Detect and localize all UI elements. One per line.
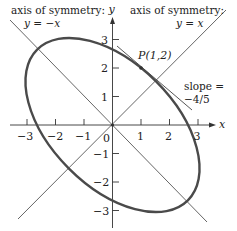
y-axis-arrow-icon: [110, 17, 115, 24]
origin-label: 0: [103, 132, 110, 145]
y-tick-label: 1: [101, 91, 108, 104]
x-tick-label: −1: [75, 130, 91, 143]
x-tick-label: −2: [47, 130, 63, 143]
x-axis-label: x: [219, 118, 226, 131]
x-tick-label: 3: [194, 130, 201, 143]
y-tick-label: −1: [93, 148, 109, 161]
y-axis-label: y: [108, 3, 116, 16]
right-axis-equation: y = x: [175, 17, 203, 29]
x-tick-label: 2: [165, 130, 172, 143]
y-tick-label: 2: [101, 62, 108, 75]
point-p-label: P(1,2): [137, 49, 171, 62]
y-tick-label: 3: [101, 34, 108, 47]
slope-label: slope =: [184, 80, 224, 92]
x-axis-arrow-icon: [209, 123, 216, 128]
origin-dot: [111, 123, 114, 126]
x-tick-label: −3: [17, 130, 33, 143]
symmetry-line-y-eq-neg-x: [10, 20, 207, 222]
slope-value: −4/5: [184, 93, 210, 105]
ellipse-diagram: x y −3 −2 −1 1 2 3 0 3 2 1 −1 −2 −3 axis…: [0, 0, 237, 231]
y-tick-label: −2: [93, 176, 109, 189]
left-axis-equation: y = −x: [23, 17, 60, 29]
right-axis-title: axis of symmetry:: [130, 4, 224, 16]
x-tick-label: 1: [137, 130, 144, 143]
y-tick-label: −3: [93, 205, 109, 218]
point-p: [139, 66, 143, 70]
left-axis-title: axis of symmetry:: [11, 4, 105, 16]
